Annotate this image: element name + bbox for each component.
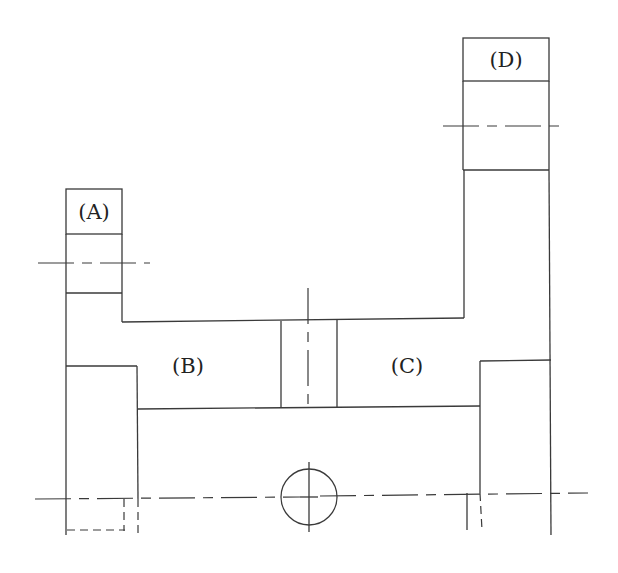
label-c: (C) xyxy=(391,356,423,377)
centerline-bottom-left xyxy=(35,497,300,499)
bottom-features xyxy=(35,462,588,535)
label-a: (A) xyxy=(78,202,110,223)
centerline-bottom-right xyxy=(320,493,588,496)
label-b: (B) xyxy=(172,356,204,377)
technical-drawing xyxy=(0,0,618,573)
label-d: (D) xyxy=(489,50,522,71)
